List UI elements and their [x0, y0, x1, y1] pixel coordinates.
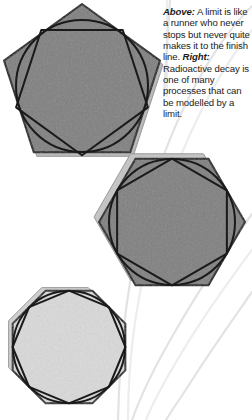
- caption-above-label: Above:: [163, 6, 195, 17]
- figure-page: Above: A limit is like a runner who neve…: [0, 0, 252, 420]
- caption-right-label: Right:: [183, 51, 210, 62]
- octagon-figure: [9, 288, 126, 404]
- outer-polygon: [4, 4, 160, 152]
- caption-right-text: Radioactive decay is one of many process…: [163, 63, 249, 119]
- caption-paragraph: Above: A limit is like a runner who neve…: [163, 6, 251, 119]
- pentagon-figure: [4, 4, 163, 156]
- caption-text: Above: A limit is like a runner who neve…: [163, 6, 251, 119]
- hexagon-figure: [94, 154, 245, 286]
